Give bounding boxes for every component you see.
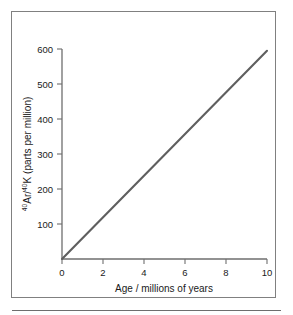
x-axis-title: Age / millions of years bbox=[115, 283, 213, 294]
y-tick-label: 200 bbox=[37, 184, 53, 195]
x-tick-label: 6 bbox=[182, 267, 187, 278]
x-tick-label: 10 bbox=[262, 267, 273, 278]
bottom-divider bbox=[12, 310, 281, 311]
figure-panel: 100 200 300 400 500 600 0 2 4 6 8 10 Age… bbox=[11, 11, 276, 298]
x-tick-label: 2 bbox=[100, 267, 105, 278]
y-tick-label: 400 bbox=[37, 114, 53, 125]
y-tick-label: 100 bbox=[37, 219, 53, 230]
x-tick-label: 8 bbox=[223, 267, 228, 278]
x-tick-label: 4 bbox=[141, 267, 146, 278]
y-tick-label: 600 bbox=[37, 44, 53, 55]
y-tick-label: 500 bbox=[37, 79, 53, 90]
data-series-line bbox=[62, 51, 267, 259]
svg-text:40Ar/40K (parts per million): 40Ar/40K (parts per million) bbox=[21, 97, 33, 212]
y-axis-title-base-1: Ar/ bbox=[22, 191, 33, 204]
y-axis-title-base-2: K (parts per million) bbox=[22, 97, 33, 184]
chart-plot: 100 200 300 400 500 600 0 2 4 6 8 10 Age… bbox=[12, 12, 274, 296]
y-axis-title: 40Ar/40K (parts per million) bbox=[21, 97, 33, 212]
y-tick-label: 300 bbox=[37, 149, 53, 160]
x-tick-label: 0 bbox=[59, 267, 64, 278]
